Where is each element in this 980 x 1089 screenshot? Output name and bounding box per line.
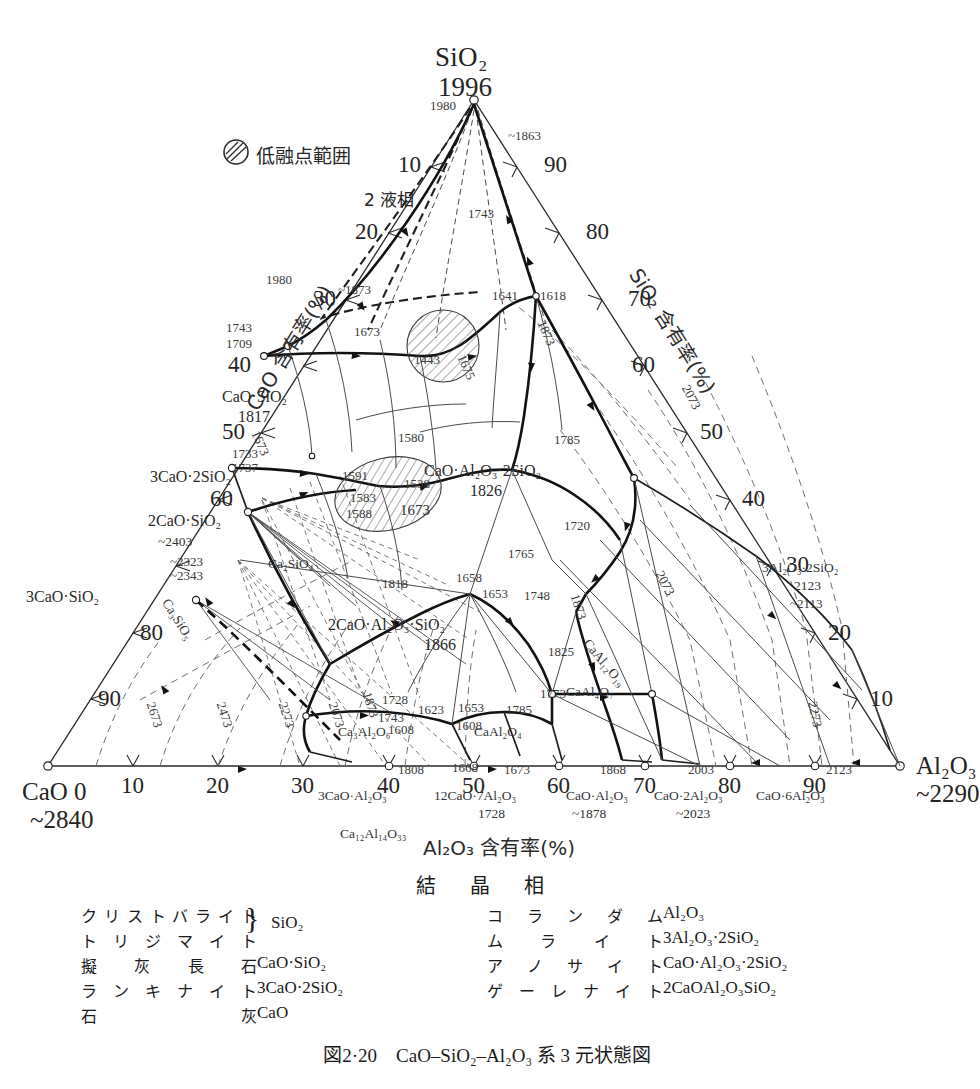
temp-label-1583: 1583 [350, 490, 376, 506]
temp-label-1873a: ~1873 [338, 282, 371, 298]
temp-label-1673c: 1673 [400, 502, 430, 519]
right-tick-60: 60 [632, 352, 655, 378]
jp-char: イ [607, 953, 623, 977]
temp-label-1580: 1580 [398, 430, 424, 446]
temp-label-1623: 1623 [418, 702, 444, 718]
jp-char: コ [487, 903, 503, 927]
compound-gehlenite: 2CaO·Al₂O₃·SiO₂ [328, 616, 445, 634]
jp-char: ラ [527, 903, 543, 927]
corner-label-cao: CaO 0 [22, 778, 87, 806]
compound-ca2sio4: Ca₂SiO₄ [268, 556, 313, 572]
bottom-tick-20: 20 [206, 773, 229, 799]
corner-temp-al2o3: ~2290 [916, 780, 980, 808]
temp-label-1653b: 1653 [458, 700, 484, 716]
compound-3cao-2sio2: 3CaO·2SiO₂ [150, 468, 231, 486]
jp-char: 擬 [81, 953, 97, 977]
bottom-tick-70: 70 [633, 773, 656, 799]
jp-char: ト [81, 928, 97, 952]
bottom-compound-ca12al14o33: Ca₁₂Al₁₄O₃₃ [340, 826, 407, 842]
temp-label-1720: 1720 [564, 518, 590, 534]
bottom-compound-3cao-al2o3: 3CaO·Al₂O₃ [318, 788, 387, 804]
compound-anorthite-temp: 1826 [470, 482, 502, 500]
phase-formula-anorthite: CaO·Al₂O₃·2SiO₂ [663, 953, 893, 977]
jp-char: ク [81, 903, 97, 927]
right-tick-40: 40 [742, 486, 765, 512]
jp-char: ラ [195, 903, 211, 927]
compound-cao-sio2: CaO·SiO₂ [222, 388, 287, 406]
temp-label-1641: 1641 [492, 288, 518, 304]
jp-char: ン [567, 903, 583, 927]
triangle-outline [48, 100, 900, 766]
phase-formula-sio2-group: } SiO₂ [257, 903, 457, 927]
temp-label-1785b: 1785 [506, 702, 532, 718]
jp-char: ム [487, 928, 503, 952]
phase-formula-rankinite: 3CaO·2SiO₂ [257, 978, 457, 1002]
temp-label-1591: 1591 [342, 468, 368, 484]
jp-char: ゲ [487, 978, 503, 1002]
left-tick-40: 40 [228, 352, 251, 378]
compound-3cao-sio2: 3CaO·SiO₂ [26, 588, 99, 606]
temp-label-1863: ~1863 [508, 128, 541, 144]
compound-ca3al2o6: Ca₃Al₂O₆ [338, 724, 390, 740]
jp-char: キ [145, 978, 161, 1002]
temp-label-1608a: 1608 [388, 722, 414, 738]
temp-label-1748: 1748 [524, 588, 550, 604]
temp-label-1618: 1618 [540, 288, 566, 304]
bottom-tick-30: 30 [291, 773, 314, 799]
temp-label-1608b: 1608 [456, 718, 482, 734]
brace-icon: } [245, 905, 259, 931]
temp-label-1653a: 1653 [482, 586, 508, 602]
temp-label-1588: 1588 [346, 506, 372, 522]
temp-label-1443: 1443 [414, 352, 440, 368]
left-tick-20: 20 [355, 219, 378, 245]
phase-formula-lime: CaO [257, 1003, 457, 1027]
jp-char: 灰 [241, 1003, 257, 1027]
jp-char: イ [218, 903, 234, 927]
temp-label-1743a: 1743 [468, 206, 494, 222]
compound-mullite-temp: 2123 [794, 578, 821, 594]
temp-label-1673d: 1673 [504, 762, 530, 778]
right-tick-80: 80 [586, 219, 609, 245]
temp-label-1658: 1658 [456, 570, 482, 586]
phase-row-jp-3: ラ ン キ ナ イ ト [81, 978, 257, 1002]
corner-markers [44, 96, 904, 770]
corner-label-al2o3: Al₂O₃ [916, 752, 977, 780]
jp-char: ナ [583, 978, 599, 1002]
jp-char: ト [647, 978, 663, 1002]
temp-label-1980b: 1980 [266, 272, 292, 288]
temp-2113: ~2113 [790, 596, 823, 612]
jp-char: マ [177, 928, 193, 952]
jp-char: イ [209, 928, 225, 952]
compound-anorthite: CaO·Al₂O₃·2SiO₂ [424, 462, 541, 480]
corner-temp-cao: ~2840 [30, 806, 94, 834]
temp-label-1825: 1825 [548, 644, 574, 660]
temp-label-1773: 1773 [540, 686, 566, 702]
phase-row-jp-r0: コ ラ ン ダ ム [487, 903, 663, 927]
temp-label-1668: 1668 [452, 760, 478, 776]
jp-char: レ [551, 978, 567, 1002]
phase-formula-al2o3: Al₂O₃ [663, 903, 893, 927]
jp-char: ト [150, 903, 166, 927]
apex-label-sio2: SiO₂ [435, 42, 488, 73]
right-tick-90: 90 [544, 152, 567, 178]
temp-label-1743b: 1743 [226, 320, 252, 336]
compound-2cao-sio2: 2CaO·SiO₂ [148, 512, 221, 530]
compound-mullite: 3Al₂O₃·2SiO₂ [762, 560, 838, 576]
phase-row-jp-4: 石 灰 [81, 1003, 257, 1027]
bottom-compound-cao-2al2o3: CaO·2Al₂O₃ [654, 788, 723, 804]
isotherm-lines [96, 562, 476, 766]
left-tick-80: 80 [140, 620, 163, 646]
compound-cao-sio2-temp: 1817 [238, 408, 270, 426]
jp-char: ト [647, 928, 663, 952]
low-melting-legend-icon [222, 138, 250, 166]
jp-char: ダ [607, 903, 623, 927]
bottom-compound-cao-6al2o3: CaO·6Al₂O₃ [756, 788, 825, 804]
jp-char: ラ [540, 928, 556, 952]
jp-char: イ [209, 978, 225, 1002]
jp-char: 長 [188, 953, 204, 977]
bottom-compound-12cao-7al2o3: 12CaO·7Al₂O₃ [434, 788, 516, 804]
temp-label-1538: 1538 [404, 476, 430, 492]
jp-char: 石 [81, 1003, 97, 1027]
temp-label-2003: 2003 [688, 762, 714, 778]
